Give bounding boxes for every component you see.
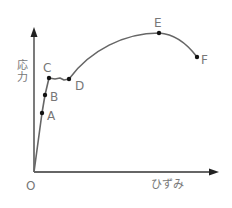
point-d-label: D xyxy=(75,80,84,92)
point-b-marker xyxy=(43,93,47,97)
stress-strain-curve xyxy=(34,33,197,172)
point-a-marker xyxy=(40,111,44,115)
point-e-label: E xyxy=(154,17,162,29)
y-axis-label-2: 力 xyxy=(16,72,28,84)
point-c-label: C xyxy=(43,62,51,74)
point-f-marker xyxy=(195,55,199,59)
point-f-label: F xyxy=(201,54,208,66)
stress-strain-diagram xyxy=(0,0,232,208)
point-c-marker xyxy=(47,76,51,80)
x-axis-arrow-icon xyxy=(209,169,219,176)
x-axis-label: ひずみ xyxy=(151,179,184,191)
point-e-marker xyxy=(157,31,161,35)
origin-label: O xyxy=(26,180,35,192)
y-axis-arrow-icon xyxy=(31,27,38,37)
point-b-label: B xyxy=(50,91,58,103)
point-d-marker xyxy=(67,77,71,81)
point-a-label: A xyxy=(47,110,55,122)
